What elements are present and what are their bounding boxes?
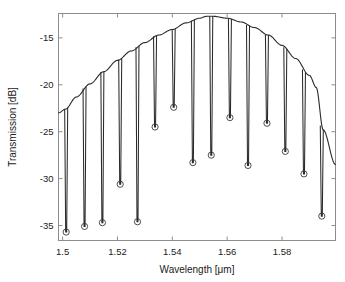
data-curve-group [59, 16, 336, 164]
x-tick-label: 1.52 [108, 246, 127, 257]
y-tick-label: -30 [40, 173, 54, 184]
x-axis-title: Wavelength [μm] [160, 264, 235, 275]
resonance-notch [320, 125, 323, 216]
resonance-notch [119, 58, 122, 184]
resonance-notch [101, 72, 104, 223]
axes-frame [59, 14, 336, 241]
resonance-notch [284, 47, 287, 151]
resonance-notch [154, 36, 157, 127]
resonance-notch [191, 20, 194, 163]
y-tick-label: -35 [40, 220, 54, 231]
resonance-notch [228, 19, 231, 118]
x-tick-label: 1.5 [56, 246, 69, 257]
transmission-envelope-curve [59, 16, 336, 164]
figure-container: 1.51.521.541.561.58 -15-20-25-30-35 Wave… [0, 0, 345, 282]
resonance-notch [247, 25, 250, 166]
y-tick-label: -25 [40, 126, 54, 137]
y-tick-label: -15 [40, 32, 54, 43]
transmission-spectrum-chart: 1.51.521.541.561.58 -15-20-25-30-35 Wave… [0, 0, 345, 282]
resonance-notch [172, 29, 175, 108]
resonance-notch [83, 87, 86, 227]
notch-lines-group [65, 16, 324, 232]
x-tick-label: 1.58 [273, 246, 292, 257]
x-tick-label: 1.54 [163, 246, 182, 257]
resonance-notch [65, 108, 68, 232]
y-tick-labels: -15-20-25-30-35 [40, 32, 54, 231]
resonance-notch [210, 16, 213, 155]
y-axis-title: Transmission [dB] [7, 87, 18, 167]
resonance-notch [136, 46, 139, 222]
x-tick-labels: 1.51.521.541.561.58 [56, 246, 291, 257]
y-axis-ticks [59, 38, 336, 226]
resonance-notch [302, 69, 305, 173]
resonance-notch [265, 35, 268, 123]
y-tick-label: -20 [40, 79, 54, 90]
x-tick-label: 1.56 [218, 246, 237, 257]
